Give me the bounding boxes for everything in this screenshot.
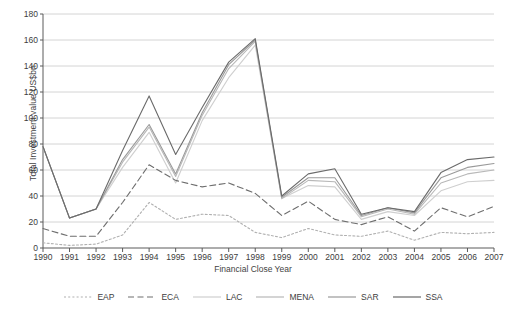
legend-swatch-lac [192,293,222,301]
chart-root: Total Investment value US$bn Financial C… [0,0,506,316]
legend-swatch-mena [255,293,285,301]
legend-label: LAC [226,292,243,302]
chart-plot-area [0,0,506,316]
legend-item-sar[interactable]: SAR [327,292,378,302]
legend-label: MENA [289,292,314,302]
series-line-sar [43,40,494,218]
series-line-mena [43,41,494,218]
legend-label: EAP [97,292,114,302]
legend-item-mena[interactable]: MENA [255,292,314,302]
series-line-eap [43,203,494,246]
legend-item-eca[interactable]: ECA [127,292,178,302]
legend-label: SAR [361,292,378,302]
legend-item-ssa[interactable]: SSA [392,292,443,302]
chart-legend: EAPECALACMENASARSSA [0,292,506,302]
legend-item-eap[interactable]: EAP [63,292,114,302]
legend-swatch-sar [327,293,357,301]
legend-swatch-eap [63,293,93,301]
legend-item-lac[interactable]: LAC [192,292,243,302]
legend-label: SSA [426,292,443,302]
legend-swatch-ssa [392,293,422,301]
legend-swatch-eca [127,293,157,301]
legend-label: ECA [161,292,178,302]
